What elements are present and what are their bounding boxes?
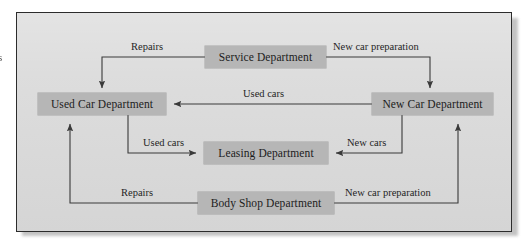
edge-label-used-cars-middle: Used cars	[243, 88, 284, 100]
node-service-department[interactable]: Service Department	[205, 46, 326, 68]
edge-label-new-cars-leasing: New cars	[347, 137, 386, 149]
edge-label-repairs-top: Repairs	[131, 41, 163, 53]
edge-label-new-car-preparation-top: New car preparation	[333, 41, 419, 53]
node-body-shop-department[interactable]: Body Shop Department	[198, 192, 334, 214]
edge-label-used-cars-leasing: Used cars	[143, 137, 184, 149]
node-leasing-department[interactable]: Leasing Department	[204, 142, 328, 164]
node-used-car-department[interactable]: Used Car Department	[38, 93, 166, 115]
figure-root: s Service Department	[0, 0, 527, 248]
node-new-car-department[interactable]: New Car Department	[372, 93, 493, 115]
page-margin-text-fragment: s	[0, 51, 5, 63]
edge-label-new-car-preparation-bottom: New car preparation	[345, 187, 431, 199]
edge-label-repairs-bottom: Repairs	[121, 187, 153, 199]
